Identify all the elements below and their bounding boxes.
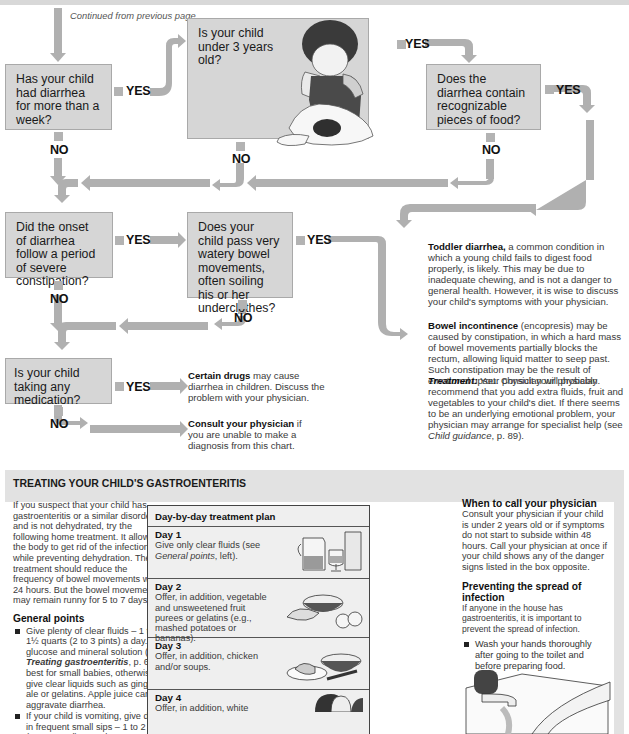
question-text: Did the onset of diarrhea follow a perio… xyxy=(16,220,95,288)
question-text: Is your child under 3 years old? xyxy=(198,27,278,68)
result-certain-drugs: Certain drugs may cause diarrhea in chil… xyxy=(188,370,328,403)
day-text: Offer, in addition, chicken and/or soups… xyxy=(155,651,258,671)
yes-marker xyxy=(114,87,123,96)
yes-marker xyxy=(115,382,124,391)
question-watery-movements: Does your child pass very watery bowel m… xyxy=(187,212,293,298)
yes-label: YES xyxy=(405,37,429,51)
no-label: NO xyxy=(50,417,68,431)
no-marker xyxy=(54,132,63,141)
yes-marker xyxy=(545,85,554,94)
intro-column: If you suspect that your child has gastr… xyxy=(13,496,168,734)
continued-note: Continued from previous page xyxy=(70,11,196,22)
bread-icon xyxy=(305,692,365,712)
preventing-list: Wash your hands thoroughly after going t… xyxy=(462,639,612,671)
no-marker xyxy=(486,133,495,142)
no-marker xyxy=(236,142,245,151)
result-title: Bowel incontinence xyxy=(428,320,518,331)
plan-heading: Day-by-day treatment plan xyxy=(148,506,369,527)
child-illustration-icon xyxy=(275,10,390,150)
cross-reference-link[interactable]: Treating gastroenteritis xyxy=(26,657,128,667)
cross-reference-link[interactable]: General points xyxy=(155,551,215,561)
yes-label: YES xyxy=(556,83,580,97)
no-label: NO xyxy=(482,143,500,157)
item-text: Give plenty of clear fluids – 1 to 1½ qu… xyxy=(26,626,163,657)
no-marker xyxy=(238,300,247,309)
result-title: Toddler diarrhea, xyxy=(428,241,506,252)
result-toddler-diarrhea: Toddler diarrhea, a common condition in … xyxy=(428,241,626,307)
no-label: NO xyxy=(50,292,68,306)
section-right-edge xyxy=(614,470,624,734)
question-text: Has your child had diarrhea for more tha… xyxy=(16,72,99,127)
day-text: Offer, in addition, white xyxy=(155,703,248,713)
day-text-tail: , left). xyxy=(215,551,238,561)
result-title: Certain drugs xyxy=(188,370,250,381)
no-label: NO xyxy=(234,311,252,325)
result-consult-physician: Consult your physician if you are unable… xyxy=(188,418,318,451)
question-text: Is your child taking any medication? xyxy=(14,366,80,407)
question-after-constipation: Did the onset of diarrhea follow a perio… xyxy=(5,212,113,278)
no-marker xyxy=(54,407,63,416)
result-title: Treatment: xyxy=(428,375,477,386)
preventing-heading: Preventing the spread of infection xyxy=(462,581,612,603)
yes-label: YES xyxy=(126,380,150,394)
plan-day-3: Day 3 Offer, in addition, chicken and/or… xyxy=(148,638,369,690)
intro-text: If you suspect that your child has gastr… xyxy=(13,500,168,606)
section-title: TREATING YOUR CHILD'S GASTROENTERITIS xyxy=(13,477,246,489)
day-text: Give only clear fluids (see xyxy=(155,540,260,550)
result-title: Consult your physician xyxy=(188,418,294,429)
when-to-call-text: Consult your physician if your child is … xyxy=(462,509,612,573)
general-points-heading: General points xyxy=(13,614,168,625)
yes-marker xyxy=(296,236,305,245)
question-taking-medication: Is your child taking any medication? xyxy=(5,358,112,404)
chicken-soup-icon xyxy=(285,649,365,685)
fluids-jug-icon xyxy=(295,530,365,574)
physician-column: When to call your physician Consult your… xyxy=(462,498,612,671)
no-label: NO xyxy=(232,152,250,166)
list-item: If your child is vomiting, give drinks i… xyxy=(13,711,168,734)
plan-day-1: Day 1 Give only clear fluids (see Genera… xyxy=(148,527,369,579)
result-text-tail: , p. 89). xyxy=(491,430,524,441)
general-points-list: Give plenty of clear fluids – 1 to 1½ qu… xyxy=(13,626,168,734)
day-text: Offer, in addition, vegetable and unswee… xyxy=(155,592,267,643)
question-diarrhea-over-week: Has your child had diarrhea for more tha… xyxy=(5,64,112,130)
yes-label: YES xyxy=(126,233,150,247)
when-to-call-heading: When to call your physician xyxy=(462,498,612,509)
cross-reference-link[interactable]: Child guidance xyxy=(428,430,491,441)
yes-marker xyxy=(115,236,124,245)
plan-day-4: Day 4 Offer, in addition, white xyxy=(148,690,369,734)
purees-bananas-icon xyxy=(285,589,365,633)
result-treatment: Treatment: Your physician will probably … xyxy=(428,375,626,441)
yes-label: YES xyxy=(307,233,331,247)
question-recognizable-food: Does the diarrhea contain recognizable p… xyxy=(426,64,541,130)
list-item: Wash your hands thoroughly after going t… xyxy=(462,639,612,671)
yes-label: YES xyxy=(126,84,150,98)
hand-washing-illustration-icon xyxy=(462,668,612,734)
preventing-text: If anyone in the house has gastroenterit… xyxy=(462,603,612,635)
plan-day-2: Day 2 Offer, in addition, vegetable and … xyxy=(148,579,369,638)
list-item: Give plenty of clear fluids – 1 to 1½ qu… xyxy=(13,626,168,711)
treatment-plan-table: Day-by-day treatment plan Day 1 Give onl… xyxy=(147,505,370,734)
question-text: Does the diarrhea contain recognizable p… xyxy=(437,72,525,127)
no-label: NO xyxy=(50,143,68,157)
no-marker xyxy=(54,281,63,290)
